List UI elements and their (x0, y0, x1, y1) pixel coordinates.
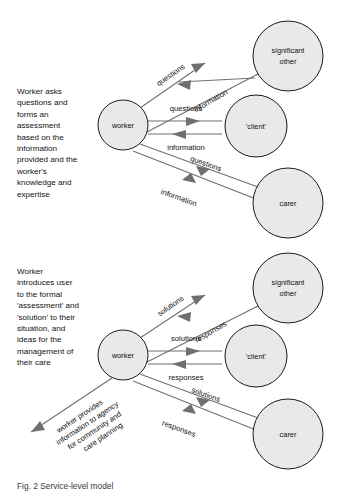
edge-p2-worker-to-significant-other: solutions (140, 294, 205, 338)
node-p2-client[interactable]: 'client' (225, 325, 287, 387)
node-label-p1-carer: carer (280, 199, 297, 208)
node-label-p2-worker: worker (111, 351, 135, 360)
node-p1-carer[interactable]: carer (253, 168, 323, 238)
node-p1-worker[interactable]: worker (98, 100, 148, 150)
figure-caption: Fig. 2 Service-level model (17, 481, 113, 491)
node-label-p1-significant-other-line1: significant (272, 46, 305, 55)
edge-label-p1-information-client: information (167, 143, 205, 152)
edge-label-p1-questions-client: questions (170, 104, 203, 113)
node-label-p1-worker: worker (111, 121, 135, 130)
node-label-p2-significant-other-line2: other (280, 289, 297, 298)
node-label-p2-significant-other-line1: significant (272, 278, 305, 287)
edge-p1-worker-to-client: questions (148, 104, 222, 126)
edge-label-p2-solutions-client: solutions (171, 334, 201, 343)
node-label-p1-client: 'client' (246, 122, 267, 131)
node-p1-client[interactable]: 'client' (225, 95, 287, 157)
node-p2-worker[interactable]: worker (98, 330, 148, 380)
edge-label-p2-solutions-so: solutions (156, 294, 186, 319)
edge-p2-worker-to-client: solutions (148, 334, 222, 356)
relationship-diagram: questions information questions informat… (0, 0, 339, 491)
edge-p1-client-to-worker: information (148, 130, 222, 152)
edge-p2-worker-to-agency: worker provides information to agency fo… (31, 378, 131, 464)
edge-label-p2-responses-client: responses (168, 373, 203, 382)
edge-p2-client-to-worker: responses (148, 360, 222, 382)
node-label-p1-significant-other-line2: other (280, 57, 297, 66)
node-p2-significant-other[interactable]: significant other (253, 253, 323, 323)
edge-p1-worker-to-significant-other: questions (140, 62, 205, 108)
node-p1-significant-other[interactable]: significant other (253, 21, 323, 91)
node-label-p2-carer: carer (280, 430, 297, 439)
edge-label-p2-responses-carer: responses (161, 418, 197, 439)
edge-label-p1-information-carer: information (160, 187, 198, 208)
node-label-p2-client: 'client' (246, 352, 267, 361)
figure-canvas: Worker asks questions and forms an asses… (0, 0, 339, 491)
node-p2-carer[interactable]: carer (253, 399, 323, 469)
